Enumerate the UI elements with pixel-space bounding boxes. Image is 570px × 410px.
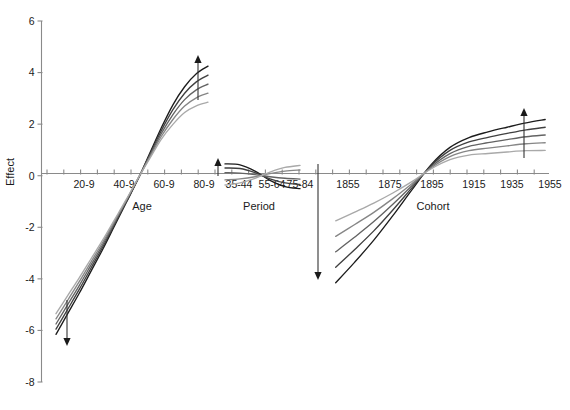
x-tick-label: 1875 — [378, 178, 402, 190]
y-tick-label: -2 — [25, 221, 34, 233]
x-tick-label: 1935 — [500, 178, 524, 190]
y-tick-label: -8 — [25, 376, 34, 388]
x-tick-label: 60-9 — [153, 178, 174, 190]
panel-title-period: Period — [243, 200, 275, 212]
x-axis: 20-940-960-980-935-4455-6475-84185518751… — [42, 170, 562, 190]
arrow-head — [194, 55, 201, 63]
age-arrow-up — [194, 55, 201, 100]
y-tick-label: -6 — [25, 324, 34, 336]
period-arrow-down — [314, 164, 321, 280]
curve-cohort-curve-3 — [336, 135, 545, 252]
y-axis-label: Effect — [4, 158, 16, 186]
age-period-cohort-chart: 6420-2-4-6-8 Effect 20-940-960-980-935-4… — [0, 0, 570, 410]
curve-cohort-curve-2 — [336, 127, 545, 267]
x-tick-label: 1895 — [420, 178, 444, 190]
x-tick-label: 80-9 — [193, 178, 214, 190]
x-tick-label: 40-9 — [113, 178, 134, 190]
x-tick-label: 1915 — [462, 178, 486, 190]
arrow-head — [520, 108, 527, 116]
y-tick-label: 0 — [29, 170, 35, 182]
panel-title-cohort: Cohort — [416, 200, 449, 212]
y-tick-label: 4 — [29, 66, 35, 78]
y-tick-label: 6 — [29, 15, 35, 27]
y-tick-label: -4 — [25, 273, 34, 285]
y-axis-ticks: 6420-2-4-6-8 — [25, 15, 42, 388]
x-tick-label: 20-9 — [73, 178, 94, 190]
x-tick-label: 1955 — [538, 178, 562, 190]
y-axis: 6420-2-4-6-8 Effect — [4, 15, 43, 388]
arrow-head — [214, 158, 221, 166]
data-curves-layer — [56, 66, 545, 334]
panel-title-age: Age — [132, 200, 152, 212]
arrow-head — [314, 272, 321, 280]
chart-container: 6420-2-4-6-8 Effect 20-940-960-980-935-4… — [0, 0, 570, 410]
arrow-head — [63, 338, 70, 346]
y-tick-label: 2 — [29, 118, 35, 130]
panel-titles: AgePeriodCohort — [132, 200, 449, 212]
x-tick-label: 1855 — [336, 178, 360, 190]
